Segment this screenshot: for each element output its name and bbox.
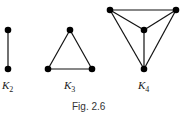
label-k2: K2 [2,79,13,94]
vertex [107,7,114,14]
vertex [5,66,12,73]
edge [70,30,92,69]
edge [48,30,70,69]
vertex [89,66,96,73]
graph-k2 [5,27,12,73]
edge [144,10,176,69]
label-k3: K3 [64,79,75,94]
edge [110,10,144,69]
figure-caption: Fig. 2.6 [72,101,105,112]
vertex [141,66,148,73]
vertex [141,27,148,34]
vertex [67,27,74,34]
graph-k4 [107,7,180,73]
label-k4: K4 [138,79,149,94]
vertex [45,66,52,73]
vertex [5,27,12,34]
vertex [173,7,180,14]
graph-k3 [45,27,96,73]
